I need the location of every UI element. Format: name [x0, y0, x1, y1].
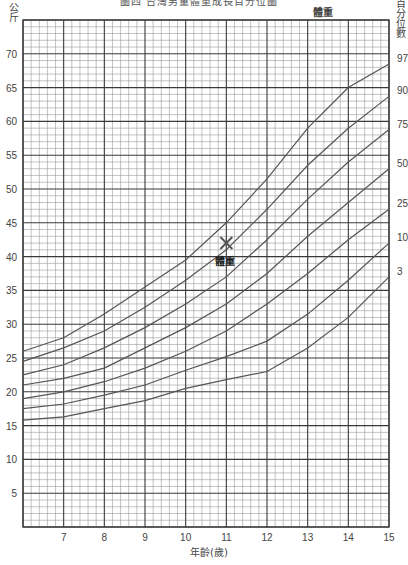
y-tick-label: 20 [6, 387, 18, 398]
percentile-curve-90 [23, 96, 389, 361]
y-tick-label: 55 [6, 150, 18, 161]
y-tick-label: 70 [6, 49, 18, 60]
percentile-label-25: 25 [397, 198, 408, 209]
y-tick-label: 10 [6, 454, 18, 465]
x-tick-label: 7 [61, 532, 67, 543]
x-tick-label: 8 [102, 532, 108, 543]
y-tick-label: 35 [6, 285, 18, 296]
percentile-label-97: 97 [397, 53, 408, 64]
y-tick-label: 65 [6, 83, 18, 94]
marker-label: 體重 [215, 253, 235, 268]
y-tick-label: 25 [6, 353, 18, 364]
y-tick-label: 60 [6, 116, 18, 127]
y-tick-label: 40 [6, 252, 18, 263]
x-tick-label: 12 [261, 532, 273, 543]
percentile-label-90: 90 [397, 85, 408, 96]
y-tick-label: 45 [6, 218, 18, 229]
growth-chart: 5101520253035404550556065707891011121314… [0, 0, 408, 565]
percentile-label-3: 3 [397, 266, 403, 277]
y-tick-label: 15 [6, 421, 18, 432]
x-tick-label: 15 [383, 532, 395, 543]
y-tick-label: 50 [6, 184, 18, 195]
x-tick-label: 10 [180, 532, 192, 543]
x-axis-label: 年齡(歲) [190, 544, 228, 559]
y-tick-label: 30 [6, 319, 18, 330]
percentile-label-50: 50 [397, 158, 408, 169]
x-tick-label: 9 [142, 532, 148, 543]
x-tick-label: 13 [302, 532, 314, 543]
plot-frame [23, 20, 389, 527]
percentile-label-10: 10 [397, 232, 408, 243]
y-tick-label: 5 [11, 488, 17, 499]
percentile-label-75: 75 [397, 119, 408, 130]
x-tick-label: 14 [343, 532, 355, 543]
percentile-curve-97 [23, 64, 389, 351]
x-tick-label: 11 [221, 532, 232, 543]
